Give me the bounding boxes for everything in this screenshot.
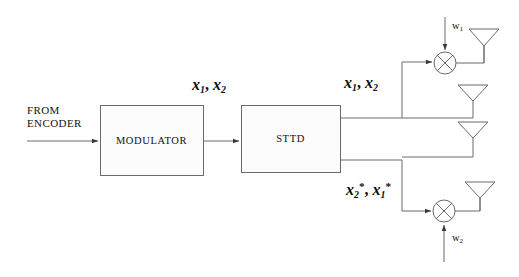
antenna-1-icon [469,29,499,46]
from-encoder-label: FROM ENCODER [27,104,82,130]
sym-comma-2: , [357,74,361,91]
sym-x2-sub: 2 [221,84,226,95]
weight-1-label: w1 [452,20,463,33]
antenna-3-icon [458,122,488,138]
wire-mult-bottom-to-antenna4 [455,198,480,211]
sym-w2-sub: 2 [460,237,464,245]
modulator-label-text: MODULATOR [116,135,187,146]
sym-bot-x1: x [373,181,381,198]
wire-mult-top-to-antenna1 [456,46,484,63]
sym-w-2: w [452,232,460,243]
sym-comma-3: , [365,181,369,198]
modulator-output-symbol-label: x1, x2 [192,76,226,96]
antenna-2-icon [458,85,488,101]
sttd-top-output-symbol-label: x1, x2 [344,74,378,94]
sym-w1-sub: 1 [460,25,464,33]
weight-2-label: w2 [452,232,463,245]
sttd-bottom-output-symbol-label: x2*, x1* [346,180,391,200]
sym-bot-star-2: * [386,180,392,192]
from-encoder-line-1: FROM [27,104,82,117]
sym-bot-x2: x [346,181,354,198]
figure-canvas: FROM ENCODER MODULATOR STTD x1, x2 x1, x… [0,0,519,277]
sym-w-1: w [452,20,460,31]
sym-top-x1: x [344,74,352,91]
sym-top-x2: x [365,74,373,91]
antenna-4-icon [465,182,495,198]
from-encoder-line-2: ENCODER [27,117,82,130]
sttd-label-text: STTD [276,133,305,144]
sym-comma-1: , [205,76,209,93]
sttd-block-label: STTD [241,105,340,172]
sym-top-x2-sub: 2 [373,82,378,93]
sym-x1: x [192,76,200,93]
sym-x2: x [213,76,221,93]
modulator-block-label: MODULATOR [100,105,203,175]
